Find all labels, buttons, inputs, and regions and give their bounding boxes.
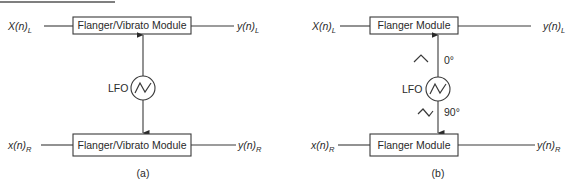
input-label-top-b: X(n)L [311, 20, 336, 35]
module-top-a: Flanger/Vibrato Module [73, 17, 191, 34]
phase-top-label: 0° [444, 54, 454, 66]
module-bottom-a-label: Flanger/Vibrato Module [78, 139, 187, 151]
lfo-a: LFO [108, 35, 155, 133]
module-top-b-label: Flanger Module [378, 19, 451, 31]
input-label-bottom-b: x(n)R [310, 139, 335, 154]
phase-bottom-label: 90° [444, 106, 460, 118]
panel-a: Flanger/Vibrato Module X(n)L y(n)L LFO F… [7, 17, 262, 179]
module-bottom-b-label: Flanger Module [378, 139, 451, 151]
input-label-bottom-a: x(n)R [7, 139, 32, 154]
lfo-label-b: LFO [402, 83, 422, 95]
phase-90-wave-icon [418, 109, 433, 116]
module-bottom-a: Flanger/Vibrato Module [73, 134, 191, 156]
caption-b: (b) [432, 167, 445, 179]
flanger-diagram-canvas: Flanger/Vibrato Module X(n)L y(n)L LFO F… [0, 0, 576, 190]
module-top-a-label: Flanger/Vibrato Module [78, 19, 187, 31]
caption-a: (a) [137, 167, 150, 179]
lfo-label-a: LFO [108, 82, 128, 94]
module-top-b: Flanger Module [370, 17, 458, 34]
output-label-bottom-a: y(n)R [237, 139, 262, 154]
phase-0-wave-icon [414, 55, 428, 62]
input-label-top-a: X(n)L [7, 20, 32, 35]
output-label-bottom-b: y(n)R [536, 139, 561, 154]
output-label-top-b: y(n)L [542, 20, 565, 35]
output-label-top-a: y(n)L [236, 20, 259, 35]
module-bottom-b: Flanger Module [370, 134, 458, 156]
lfo-b: LFO 0° 90° [402, 35, 460, 133]
panel-b: Flanger Module X(n)L y(n)L LFO 0° 90° Fl… [310, 17, 565, 179]
